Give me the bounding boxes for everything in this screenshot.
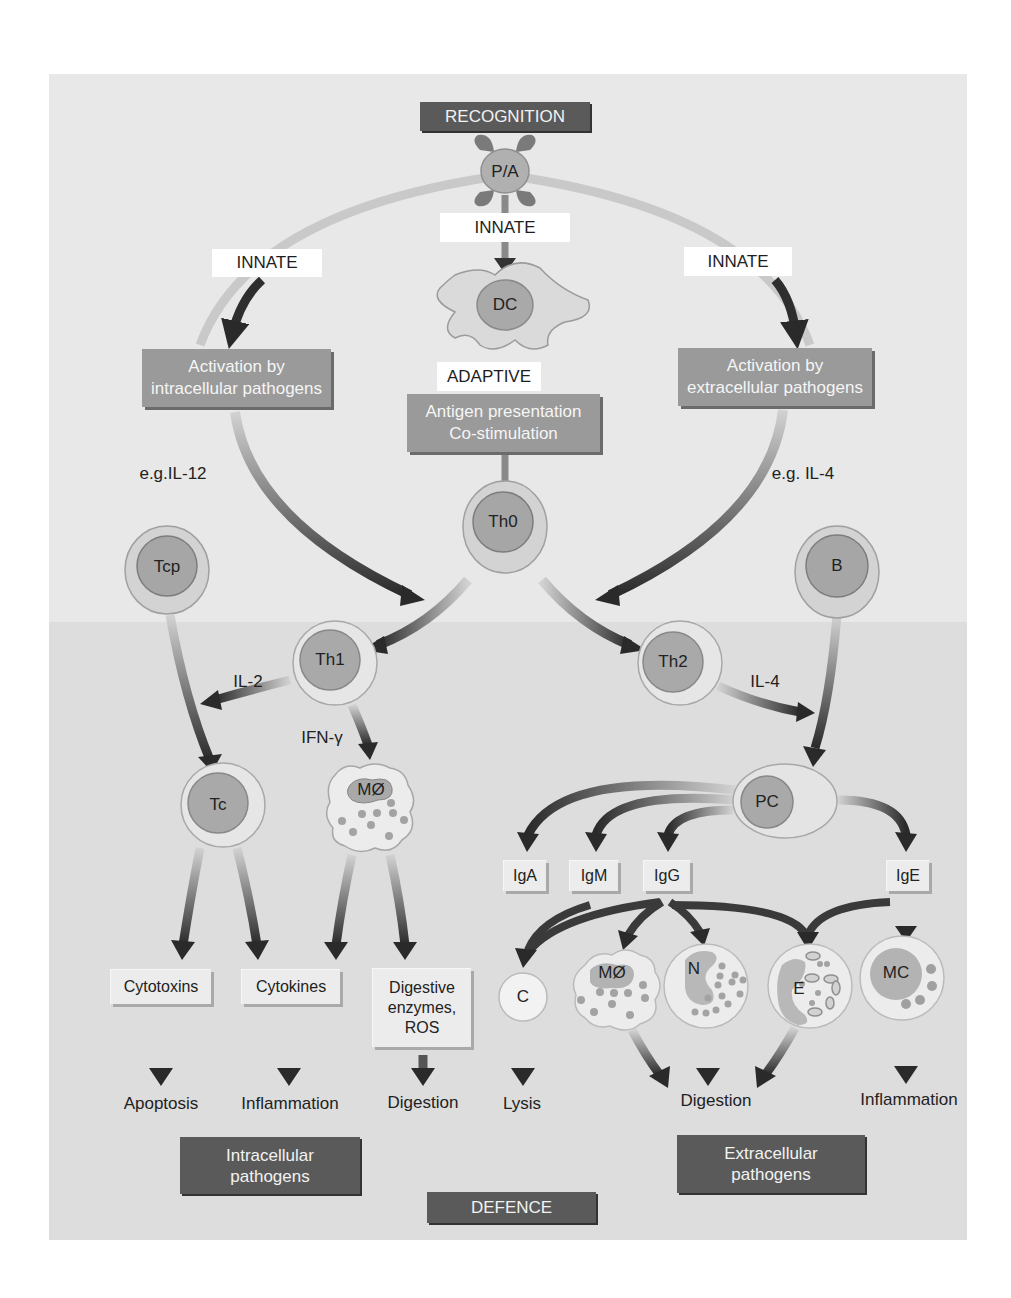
arrow-b-pc [815, 615, 837, 748]
antibody-igg: IgG [643, 860, 690, 891]
antigen-presentation-line1: Antigen presentation [426, 401, 582, 423]
arrow-e-digestion [765, 1028, 795, 1075]
antibody-iga: IgA [503, 860, 546, 891]
il2-label: IL-2 [233, 672, 262, 692]
extracellular-line1: Extracellular [724, 1143, 818, 1164]
arrow-th1-ifn-head [358, 742, 378, 760]
arrow-tc-cytokines [237, 848, 257, 945]
arrow-il12-head [400, 585, 425, 606]
th2-cell-icon [638, 621, 722, 705]
innate-tag-center: INNATE [440, 213, 570, 242]
cytotoxins-box: Cytotoxins [110, 969, 211, 1004]
digestive-line3: ROS [405, 1018, 440, 1038]
arrow-tc-cytokines-head [245, 940, 269, 960]
cytotoxins-label: Cytotoxins [124, 977, 199, 997]
adaptive-tag-label: ADAPTIVE [447, 367, 531, 387]
activation-extracellular-line1: Activation by [727, 355, 823, 377]
arrow-c-head [515, 948, 537, 968]
th0-cell-icon [463, 481, 547, 573]
ifn-gamma-label: IFN-γ [301, 728, 343, 748]
arrow-pc-ige [838, 800, 906, 835]
innate-tag-right: INNATE [684, 247, 792, 276]
arrow-tc-cytotoxins-head [171, 940, 195, 960]
activation-extracellular-line2: extracellular pathogens [687, 377, 863, 399]
arrow-th2-il4-head [796, 702, 815, 722]
mast-cell-icon [860, 936, 944, 1020]
recognition-header: RECOGNITION [420, 102, 590, 131]
arrow-innate-right [775, 280, 796, 335]
outcome-digestion-left: Digestion [388, 1093, 459, 1113]
activation-intracellular-box: Activation by intracellular pathogens [142, 349, 331, 407]
il4-th2-label: IL-4 [750, 672, 779, 692]
extracellular-line2: pathogens [731, 1164, 810, 1185]
arrow-mo-digestive [390, 855, 405, 945]
outcome-lysis: Lysis [503, 1094, 541, 1114]
digestive-enzymes-box: Digestive enzymes, ROS [372, 968, 471, 1047]
recognition-header-label: RECOGNITION [445, 106, 565, 127]
eosinophil-cell-icon [768, 944, 852, 1028]
defence-header: DEFENCE [427, 1192, 596, 1223]
outcome-digestion-right: Digestion [681, 1091, 752, 1111]
activation-intracellular-line1: Activation by [188, 356, 284, 378]
b-cell-icon [795, 526, 879, 618]
complement-icon [499, 973, 547, 1021]
antibody-ige: IgE [886, 860, 929, 891]
antigen-presentation-line2: Co-stimulation [449, 423, 558, 445]
digestive-line2: enzymes, [388, 998, 456, 1018]
innate-tag-left: INNATE [212, 249, 322, 277]
arrow-apoptosis-head [149, 1068, 173, 1086]
innate-tag-right-label: INNATE [707, 252, 768, 272]
arrow-mc-inflammation-head [894, 1066, 918, 1084]
plasma-cell-icon [733, 764, 837, 838]
th1-cell-icon [293, 621, 377, 705]
antigen-presentation-box: Antigen presentation Co-stimulation [407, 394, 600, 452]
innate-tag-left-label: INNATE [236, 253, 297, 273]
igm-label: IgM [581, 866, 608, 886]
arrow-pc-ige-head [895, 832, 917, 852]
defence-header-label: DEFENCE [471, 1197, 552, 1218]
il4-top-label: e.g. IL-4 [772, 464, 834, 484]
arrow-pc-igg [668, 810, 733, 835]
innate-tag-center-label: INNATE [474, 218, 535, 238]
arrow-pc-iga-head [517, 832, 539, 852]
cytokines-box: Cytokines [241, 969, 340, 1004]
ige-label: IgE [896, 866, 920, 886]
arrow-il4-sweep [610, 410, 783, 595]
arrow-mo-cytokines-head [324, 942, 348, 960]
tc-cell-icon [181, 763, 265, 847]
arrow-lysis-head [511, 1068, 535, 1086]
arrow-digestion-head [411, 1068, 435, 1086]
immune-response-diagram: RECOGNITION DEFENCE INNATE INNATE INNATE… [0, 0, 1011, 1298]
arrow-mo-cytokines [336, 855, 352, 945]
arrow-inflammation-head [277, 1068, 301, 1086]
intracellular-pathogens-box: Intracellular pathogens [180, 1137, 360, 1194]
adaptive-tag: ADAPTIVE [437, 362, 541, 391]
arrow-pc-igg-head [657, 832, 679, 852]
arrow-igg-mo-head [618, 930, 638, 950]
il12-label: e.g.IL-12 [139, 464, 206, 484]
arrow-th1-il2-head [200, 690, 222, 710]
arrow-b-pc-head [803, 746, 826, 767]
activation-extracellular-box: Activation by extracellular pathogens [678, 348, 872, 406]
dendritic-cell-icon [437, 263, 589, 349]
arrow-tcp-tc [170, 615, 210, 760]
extracellular-pathogens-box: Extracellular pathogens [677, 1135, 865, 1193]
arrow-th1-ifn [352, 705, 368, 745]
neutrophil-cell-icon [664, 944, 748, 1028]
tcp-cell-icon [125, 526, 209, 614]
outcome-inflammation-right: Inflammation [860, 1090, 957, 1110]
arrow-n-digestion-head [696, 1068, 720, 1086]
activation-intracellular-line2: intracellular pathogens [151, 378, 322, 400]
macrophage-cell-icon [327, 764, 414, 852]
arrow-tc-cytotoxins [183, 848, 200, 945]
arrow-mo2-digestion [632, 1030, 660, 1075]
cytokines-label: Cytokines [256, 977, 326, 997]
intracellular-line2: pathogens [230, 1166, 309, 1187]
outcome-inflammation-left: Inflammation [241, 1094, 338, 1114]
antibody-igm: IgM [569, 860, 618, 891]
arrow-il4-head [595, 585, 620, 606]
arrow-ige-e [808, 902, 890, 935]
macrophage-cell-icon-2 [573, 950, 660, 1030]
iga-label: IgA [513, 866, 537, 886]
intracellular-line1: Intracellular [226, 1145, 314, 1166]
